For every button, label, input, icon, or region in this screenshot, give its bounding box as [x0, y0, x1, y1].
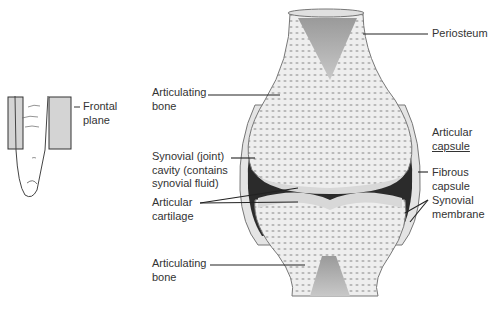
label-line: Synovial (joint) [152, 150, 228, 164]
joint-diagram [0, 0, 489, 313]
frontal-plane-right [49, 97, 71, 149]
label-line: Fibrous [432, 166, 470, 180]
label-line: bone [152, 271, 206, 285]
label-articular-cartilage: Articular cartilage [152, 196, 194, 223]
label-frontal-plane: Frontal plane [83, 100, 117, 127]
label-synovial-cavity: Synovial (joint) cavity (contains synovi… [152, 150, 228, 191]
label-periosteum: Periosteum [432, 27, 488, 41]
label-fibrous-capsule: Fibrous capsule [432, 166, 470, 193]
label-line: Articular [152, 196, 194, 210]
label-line: Periosteum [432, 27, 488, 41]
label-line: cavity (contains [152, 164, 228, 178]
label-synovial-membrane: Synovial membrane [432, 194, 485, 221]
label-articulating-bone-bottom: Articulating bone [152, 257, 206, 284]
label-line: Articulating [152, 257, 206, 271]
finger-inset [8, 96, 80, 197]
label-line: capsule [432, 180, 470, 194]
label-line: Articulating [152, 86, 206, 100]
label-line: synovial fluid) [152, 177, 228, 191]
label-line: Synovial [432, 194, 485, 208]
label-line: cartilage [152, 210, 194, 224]
label-line: membrane [432, 208, 485, 222]
label-line: plane [83, 114, 117, 128]
label-line: Frontal [83, 100, 117, 114]
synovial-joint [240, 9, 420, 296]
label-line: Articular [432, 126, 472, 140]
label-line: bone [152, 100, 206, 114]
label-articular-capsule: Articular capsule [432, 126, 472, 153]
label-articulating-bone-top: Articulating bone [152, 86, 206, 113]
label-line: capsule [432, 140, 472, 154]
